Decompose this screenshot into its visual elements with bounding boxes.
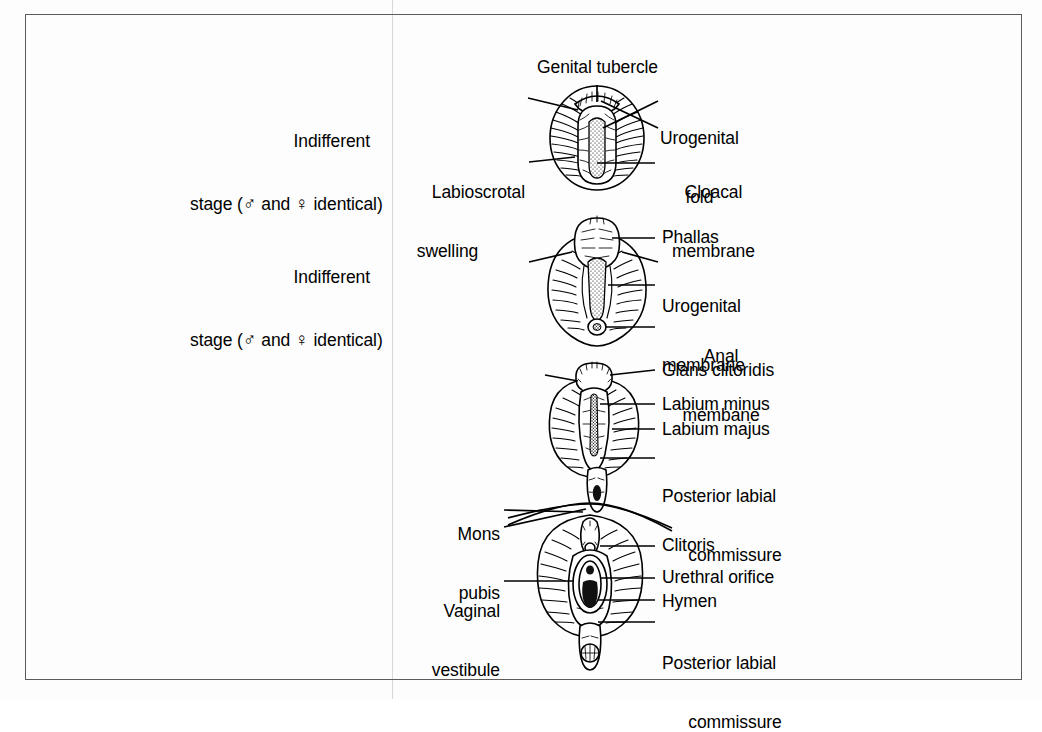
female-symbol-icon: ♀ [295, 193, 309, 214]
panel-4-illustration [504, 503, 672, 670]
label-vaginal-vestibule-line2: vestibule [350, 661, 500, 681]
label-labium-majus: Labium majus [662, 420, 770, 440]
male-symbol-icon: ♂ [243, 329, 257, 350]
label-anal-membane: Anal membane [662, 308, 780, 465]
label-vaginal-vestibule: Vaginal vestibule [350, 563, 500, 720]
label-genital-tubercle: Genital tubercle [455, 58, 740, 78]
label-posterior-labial-commissure-4-line2: commissure [662, 713, 808, 732]
panel-2-stage-label: Indifferent stage (♂ and ♀ identical) [190, 226, 370, 392]
panel-2-stage-line1: Indifferent [190, 267, 370, 288]
panel-2-stage-mid: and [257, 330, 295, 350]
panel-2-illustration [529, 216, 658, 346]
panel-2-stage-pre: stage ( [190, 330, 243, 350]
panel-1-stage-pre: stage ( [190, 194, 243, 214]
panel-1-illustration [528, 85, 658, 190]
label-hymen: Hymen [662, 592, 717, 612]
label-clitoris: Clitoris [662, 536, 715, 556]
male-symbol-icon: ♂ [243, 193, 257, 214]
label-cloacal-membrane-line1: Cloacal [672, 183, 755, 203]
label-vaginal-vestibule-line1: Vaginal [350, 602, 500, 622]
panel-3-illustration [545, 362, 655, 512]
label-posterior-labial-commissure-4-line1: Posterior labial [662, 654, 808, 674]
panel-2-stage-post: identical) [309, 330, 383, 350]
label-phallas: Phallas [662, 228, 719, 248]
panel-2-stage-line2: stage (♂ and ♀ identical) [190, 329, 370, 351]
label-urethral-orifice: Urethral orifice [662, 568, 774, 588]
panel-1-stage-mid: and [257, 194, 295, 214]
panel-1-stage-line2: stage (♂ and ♀ identical) [190, 193, 370, 215]
label-labioscrotal-swelling: Labioscrotal swelling [370, 144, 525, 301]
label-labioscrotal-swelling-line1: Labioscrotal [370, 183, 525, 203]
panel-1-stage-line1: Indifferent [190, 131, 370, 152]
female-symbol-icon: ♀ [295, 329, 309, 350]
label-labioscrotal-swelling-line2: swelling [370, 242, 525, 262]
label-labium-minus: Labium minus [662, 395, 770, 415]
label-glans-clitoridis: Glans clitoridis [662, 361, 774, 381]
label-posterior-labial-commissure-3-line1: Posterior labial [662, 487, 808, 507]
label-posterior-labial-commissure-4: Posterior labial commissure [662, 615, 808, 732]
label-mons-pubis-line1: Mons [368, 525, 500, 545]
